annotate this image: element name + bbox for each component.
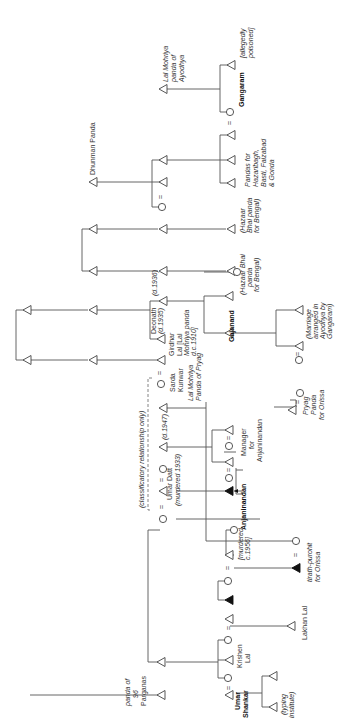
svg-text:=: =: [292, 553, 299, 557]
svg-text:Pryag: Pryag: [302, 397, 310, 415]
female-icon: [296, 389, 303, 396]
svg-text:96: 96: [132, 690, 139, 698]
female-icon: [292, 537, 299, 544]
female-icon: [224, 674, 231, 681]
male-icon: [89, 356, 97, 365]
male-icon: [227, 131, 235, 140]
label-gangaram: Gangaram: [238, 72, 246, 107]
male-icon: [159, 225, 167, 234]
svg-text:panda of: panda of: [124, 678, 132, 707]
male-icon: [295, 306, 303, 315]
male-icon: [159, 443, 167, 452]
svg-text:for Bengal): for Bengal): [253, 199, 261, 233]
male-icon: [225, 426, 233, 435]
female-icon: [158, 203, 165, 210]
label-umar-shankar: Umar: [234, 692, 241, 710]
male-icon: [225, 292, 233, 301]
male-icon: [159, 178, 167, 187]
svg-text:=: =: [225, 436, 232, 440]
male-icon: [287, 622, 295, 631]
label-classificatory: (classificatory relationship only): [138, 411, 146, 508]
female-icon: [224, 636, 231, 643]
female-icon: [226, 108, 233, 115]
svg-text:poisoned]: poisoned]: [247, 27, 255, 59]
label-umar-datt: Umar Datt: [166, 468, 173, 500]
svg-text:Lal Mohriya: Lal Mohriya: [162, 46, 170, 82]
male-filled-icon: [225, 487, 233, 496]
svg-text:[allegedly: [allegedly: [239, 28, 247, 59]
male-icon: [269, 703, 277, 712]
male-icon: [157, 658, 165, 667]
male-icon: [157, 691, 165, 700]
svg-text:Krishen: Krishen: [236, 644, 243, 668]
svg-text:(typing: (typing: [280, 694, 288, 715]
svg-text:Lal: Lal: [244, 653, 251, 663]
male-icon: [227, 179, 235, 188]
svg-text:=: =: [224, 566, 231, 570]
label-anjaninandan: Anjaninandan: [240, 484, 248, 530]
svg-text:for Orissa: for Orissa: [318, 390, 325, 420]
svg-text:Shankar: Shankar: [242, 690, 249, 718]
male-icon: [225, 615, 233, 624]
male-icon: [159, 404, 167, 413]
svg-text:=: =: [157, 195, 164, 199]
male-icon: [269, 672, 277, 681]
svg-text:Ayodhya: Ayodhya: [178, 55, 186, 83]
svg-text:Parganas: Parganas: [140, 676, 148, 706]
male-icon: [227, 61, 235, 70]
svg-text:Anjaninandan: Anjaninandan: [256, 419, 264, 462]
male-icon: [159, 267, 167, 276]
svg-text:Panda: Panda: [310, 395, 317, 415]
svg-text:Sarda: Sarda: [169, 373, 176, 392]
male-icon: [89, 225, 97, 234]
male-icon: [295, 342, 303, 351]
label-gajanand: Gajanand: [228, 310, 236, 342]
male-icon: [89, 267, 97, 276]
svg-text:=: =: [158, 505, 165, 509]
classificatory-box: [148, 378, 152, 510]
male-filled-icon: [225, 596, 233, 605]
svg-text:for Bengal): for Bengal): [253, 258, 261, 292]
male-icon: [227, 225, 235, 234]
labels: Dhunman Panda Lal Mohriya panda of Ayodh…: [89, 27, 334, 718]
male-icon: [225, 656, 233, 665]
svg-text:=: =: [225, 468, 232, 472]
svg-text:Hazaribagh,: Hazaribagh,: [252, 149, 260, 187]
label-lakhan-lal: Lakhan Lal: [301, 605, 308, 640]
label-dhunman: Dhunman Panda: [89, 122, 96, 175]
svg-text:Girdhar: Girdhar: [168, 332, 175, 356]
male-icon: [157, 356, 165, 365]
svg-text:d.c.1910]: d.c.1910]: [190, 326, 198, 356]
svg-text:Manager: Manager: [240, 428, 248, 456]
male-icon: [23, 356, 31, 365]
female-icon: [224, 577, 231, 584]
svg-text:Pandas for: Pandas for: [244, 152, 251, 187]
svg-text:=: =: [225, 686, 232, 690]
svg-text:=: =: [294, 352, 301, 356]
svg-text:& Gonda: & Gonda: [268, 159, 275, 187]
male-icon: [227, 156, 235, 165]
male-icon: [157, 335, 165, 344]
female-icon: [295, 356, 302, 363]
svg-text:for Orissa: for Orissa: [314, 552, 321, 582]
svg-text:Basti, Faizabad: Basti, Faizabad: [260, 138, 267, 187]
svg-text:=: =: [158, 478, 165, 482]
svg-text:tirath-purohit: tirath-purohit: [306, 542, 314, 582]
svg-text:institute): institute): [288, 692, 296, 718]
svg-text:(d.1935): (d.1935): [157, 308, 165, 334]
male-icon: [23, 306, 31, 315]
svg-text:(d.1947): (d.1947): [161, 414, 169, 440]
svg-text:=: =: [156, 371, 163, 375]
svg-text:c.1956]: c.1956]: [244, 536, 252, 560]
svg-text:Panda of Pryag: Panda of Pryag: [195, 353, 203, 401]
svg-text:for: for: [248, 440, 255, 449]
svg-text:panda of: panda of: [170, 54, 178, 83]
svg-text:Gangaram): Gangaram): [326, 304, 334, 339]
female-icon: [225, 442, 232, 449]
label-deonath: Deonath: [150, 307, 157, 334]
svg-text:(d.1936): (d.1936): [151, 270, 159, 296]
male-icon: [89, 306, 97, 315]
male-icon: [159, 156, 167, 165]
female-icon: [225, 474, 232, 481]
male-icon: [225, 458, 233, 467]
